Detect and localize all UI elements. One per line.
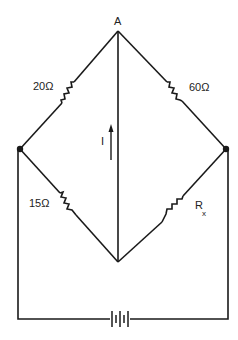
bridge-circuit-diagram: A 20Ω 60Ω 15Ω R x I xyxy=(0,0,238,340)
resistor-label-60: 60Ω xyxy=(189,81,209,93)
battery-icon xyxy=(112,311,128,327)
resistor-label-20: 20Ω xyxy=(33,80,53,92)
left-outer-wire xyxy=(18,149,110,319)
resistor-rx-branch xyxy=(118,149,226,262)
right-outer-wire xyxy=(130,149,228,319)
resistor-label-rx-subscript: x xyxy=(202,209,206,218)
resistor-label-15: 15Ω xyxy=(29,197,49,209)
current-arrow-icon xyxy=(109,124,114,160)
current-label: I xyxy=(101,135,104,147)
node-label-a: A xyxy=(114,15,122,27)
resistor-60-ohm-branch xyxy=(118,31,226,149)
